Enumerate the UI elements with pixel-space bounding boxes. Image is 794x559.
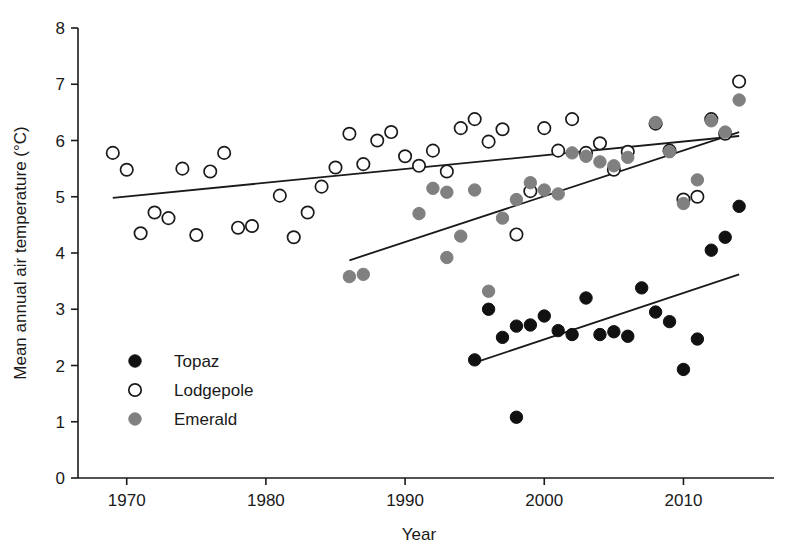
x-axis-tick-label: 2000 — [525, 491, 563, 510]
data-point-lodgepole — [204, 165, 216, 177]
data-point-topaz — [608, 326, 620, 338]
data-point-lodgepole — [399, 150, 411, 162]
data-point-topaz — [594, 328, 606, 340]
legend-label-lodgepole: Lodgepole — [174, 381, 253, 400]
data-point-topaz — [691, 333, 703, 345]
legend-label-emerald: Emerald — [174, 410, 237, 429]
data-point-lodgepole — [134, 227, 146, 239]
data-point-lodgepole — [274, 189, 286, 201]
trend-line-topaz — [475, 274, 739, 362]
data-point-emerald — [343, 270, 355, 282]
data-point-emerald — [482, 285, 494, 297]
data-point-lodgepole — [371, 134, 383, 146]
y-axis-tick-label: 7 — [56, 75, 65, 94]
data-point-topaz — [510, 411, 522, 423]
data-point-topaz — [468, 354, 480, 366]
data-point-emerald — [552, 188, 564, 200]
data-point-lodgepole — [455, 122, 467, 134]
data-point-lodgepole — [329, 161, 341, 173]
data-point-emerald — [622, 151, 634, 163]
data-point-lodgepole — [566, 113, 578, 125]
legend-label-topaz: Topaz — [174, 352, 219, 371]
x-axis-tick-label: 2010 — [665, 491, 703, 510]
data-point-lodgepole — [427, 144, 439, 156]
data-point-lodgepole — [496, 123, 508, 135]
data-point-lodgepole — [190, 229, 202, 241]
data-point-lodgepole — [218, 147, 230, 159]
data-point-lodgepole — [343, 128, 355, 140]
x-axis-tick-label: 1970 — [108, 491, 146, 510]
y-axis-tick-label: 6 — [56, 132, 65, 151]
data-point-emerald — [524, 176, 536, 188]
data-point-lodgepole — [552, 144, 564, 156]
data-point-topaz — [622, 330, 634, 342]
data-point-lodgepole — [121, 164, 133, 176]
data-point-emerald — [580, 150, 592, 162]
scatter-plot: 01234567819701980199020002010YearMean an… — [0, 0, 794, 559]
data-point-lodgepole — [468, 113, 480, 125]
y-axis-tick-label: 8 — [56, 19, 65, 38]
data-point-topaz — [705, 244, 717, 256]
y-axis-tick-label: 2 — [56, 357, 65, 376]
data-point-lodgepole — [301, 206, 313, 218]
y-axis-tick-label: 3 — [56, 300, 65, 319]
data-point-emerald — [566, 147, 578, 159]
data-point-emerald — [455, 230, 467, 242]
y-axis-tick-label: 4 — [56, 244, 65, 263]
data-point-topaz — [719, 231, 731, 243]
data-point-topaz — [510, 320, 522, 332]
data-point-lodgepole — [288, 231, 300, 243]
data-point-lodgepole — [691, 191, 703, 203]
chart-legend: TopazLodgepoleEmerald — [129, 352, 254, 429]
y-axis-tick-label: 0 — [56, 469, 65, 488]
data-point-emerald — [427, 182, 439, 194]
data-point-topaz — [524, 319, 536, 331]
data-point-emerald — [733, 94, 745, 106]
axis-labels: 01234567819701980199020002010YearMean an… — [11, 19, 702, 544]
data-point-emerald — [496, 212, 508, 224]
data-point-topaz — [496, 331, 508, 343]
data-point-lodgepole — [232, 221, 244, 233]
data-point-emerald — [357, 268, 369, 280]
data-point-emerald — [691, 174, 703, 186]
data-point-emerald — [510, 193, 522, 205]
data-point-topaz — [663, 315, 675, 327]
data-point-emerald — [677, 197, 689, 209]
y-axis-tick-label: 1 — [56, 413, 65, 432]
data-point-lodgepole — [594, 137, 606, 149]
data-point-lodgepole — [385, 126, 397, 138]
data-point-topaz — [649, 306, 661, 318]
chart-figure: 01234567819701980199020002010YearMean an… — [0, 0, 794, 559]
x-axis-tick-label: 1980 — [247, 491, 285, 510]
legend-marker-emerald — [129, 413, 141, 425]
data-point-emerald — [649, 116, 661, 128]
data-point-lodgepole — [413, 160, 425, 172]
data-point-lodgepole — [733, 75, 745, 87]
data-point-lodgepole — [482, 135, 494, 147]
data-point-lodgepole — [315, 180, 327, 192]
x-axis-tick-label: 1990 — [386, 491, 424, 510]
data-point-topaz — [635, 282, 647, 294]
data-point-topaz — [552, 324, 564, 336]
data-point-lodgepole — [148, 206, 160, 218]
data-point-emerald — [468, 184, 480, 196]
data-point-emerald — [594, 156, 606, 168]
data-point-emerald — [705, 115, 717, 127]
data-point-topaz — [538, 310, 550, 322]
data-point-topaz — [677, 363, 689, 375]
data-point-emerald — [441, 251, 453, 263]
data-point-emerald — [441, 186, 453, 198]
data-point-topaz — [566, 328, 578, 340]
data-points — [107, 75, 746, 423]
data-point-topaz — [482, 303, 494, 315]
x-axis-title: Year — [402, 525, 437, 544]
legend-marker-topaz — [129, 355, 141, 367]
legend-marker-lodgepole — [129, 384, 141, 396]
data-point-lodgepole — [107, 147, 119, 159]
data-point-lodgepole — [441, 165, 453, 177]
y-axis-title: Mean annual air temperature (°C) — [11, 126, 30, 379]
data-point-lodgepole — [162, 212, 174, 224]
data-point-emerald — [719, 126, 731, 138]
data-point-emerald — [538, 184, 550, 196]
data-point-topaz — [580, 292, 592, 304]
